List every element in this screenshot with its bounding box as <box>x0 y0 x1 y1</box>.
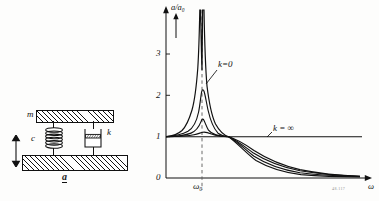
y-axis-ticks <box>166 54 170 137</box>
mass-block <box>36 110 114 123</box>
plate-number: 48.117 <box>332 187 345 191</box>
ground-block <box>22 155 128 171</box>
resonance-curves-plot <box>140 0 379 201</box>
panel-a-mechanical-schematic: m c <box>0 0 140 201</box>
y-axis-title: a/a₀ <box>171 3 185 12</box>
annotation-k-zero: k=0 <box>218 60 233 69</box>
x-axis-title: ω <box>368 182 374 191</box>
curve-heavy-damping <box>166 132 360 177</box>
curve-medium-damping <box>166 119 360 177</box>
y-tick-label-1: 1 <box>156 132 161 141</box>
panel-a-caption: a <box>62 172 67 183</box>
y-axis <box>163 6 169 178</box>
annotation-k-infinity: k = ∞ <box>273 124 294 133</box>
curve-k-zero <box>166 10 360 176</box>
spring-constant-label: c <box>31 134 35 143</box>
k-zero-leader-line <box>206 70 217 84</box>
dashpot-damper-icon <box>82 128 104 148</box>
coil-spring-icon <box>42 127 66 149</box>
x-tick-label-omega0: ω₀ <box>193 182 202 191</box>
spring-lower-rod <box>53 148 54 155</box>
mass-label: m <box>27 110 34 119</box>
panel-b-resonance-chart: a/a₀ ω 0 1 2 3 ω₀ k=0 k = ∞ b 48.117 <box>140 0 379 201</box>
figure-container: m c <box>0 0 379 201</box>
curve-light-damping <box>166 90 360 176</box>
damper-lower-rod <box>93 147 94 155</box>
ordinate-emphasis-arrow <box>173 13 178 38</box>
y-tick-label-3: 3 <box>156 49 161 58</box>
damping-constant-label: k <box>107 128 111 137</box>
y-tick-label-0: 0 <box>156 173 161 182</box>
y-tick-label-2: 2 <box>156 91 161 100</box>
vertical-double-arrow-icon <box>10 135 22 167</box>
